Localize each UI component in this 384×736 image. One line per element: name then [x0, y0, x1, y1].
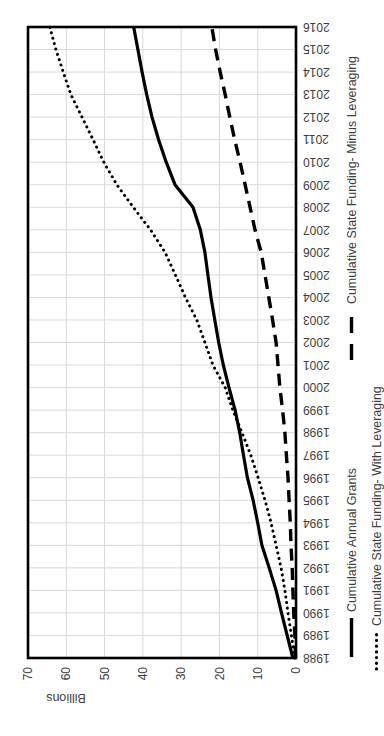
x-axis-tick-label: 2000	[303, 380, 330, 394]
y-axis-tick-label: 40	[136, 667, 150, 681]
x-axis-tick-label: 2009	[303, 178, 330, 192]
y-axis-tick-label: 70	[21, 667, 35, 681]
chart-canvas: 0102030405060701988198919901991199219931…	[0, 0, 384, 736]
x-axis-tick-label: 1995	[303, 493, 330, 507]
x-axis-tick-label: 2014	[303, 65, 330, 79]
x-axis-tick-label: 1999	[303, 403, 330, 417]
x-axis-tick-label: 2004	[303, 290, 330, 304]
x-axis-tick-label: 2010	[303, 155, 330, 169]
x-axis-tick-label: 1997	[303, 448, 330, 462]
x-axis-tick-label: 1998	[303, 425, 330, 439]
x-axis-tick-label: 2011	[303, 132, 329, 146]
x-axis-tick-label: 2002	[303, 335, 330, 349]
x-axis-tick-label: 1996	[303, 471, 330, 485]
x-axis-tick-label: 1988	[303, 651, 330, 665]
rotated-line-chart: 0102030405060701988198919901991199219931…	[0, 0, 384, 736]
x-axis-tick-label: 2003	[303, 313, 330, 327]
x-axis-tick-label: 1989	[303, 628, 330, 642]
legend-label: Cumulative State Funding- With Leveragin…	[370, 386, 384, 626]
x-axis-tick-label: 2012	[303, 110, 330, 124]
x-axis-tick-label: 1994	[303, 516, 330, 530]
x-axis-tick-label: 1991	[303, 583, 330, 597]
y-axis-tick-label: 10	[251, 667, 265, 681]
y-axis-tick-label: 0	[289, 667, 303, 674]
y-axis-units-label: Billions	[46, 691, 86, 705]
x-axis-tick-label: 1993	[303, 538, 330, 552]
y-axis-tick-label: 20	[213, 667, 227, 681]
legend-label: Cumulative State Funding- Minus Leveragi…	[345, 56, 359, 304]
x-axis-tick-label: 1992	[303, 561, 330, 575]
x-axis-tick-label: 2016	[303, 20, 330, 34]
x-axis-tick-label: 2013	[303, 87, 330, 101]
legend-label: Cumulative Annual Grants	[345, 468, 359, 612]
x-axis-tick-label: 2006	[303, 245, 330, 259]
y-axis-tick-label: 50	[98, 667, 112, 681]
scanned-page: 0102030405060701988198919901991199219931…	[0, 0, 384, 736]
x-axis-tick-label: 2001	[303, 358, 330, 372]
x-axis-tick-label: 2005	[303, 268, 330, 282]
y-axis-tick-label: 30	[174, 667, 188, 681]
x-axis-tick-label: 2015	[303, 42, 330, 56]
y-axis-tick-label: 60	[59, 667, 73, 681]
x-axis-tick-label: 2007	[303, 223, 330, 237]
x-axis-tick-label: 2008	[303, 200, 330, 214]
x-axis-tick-label: 1990	[303, 606, 330, 620]
